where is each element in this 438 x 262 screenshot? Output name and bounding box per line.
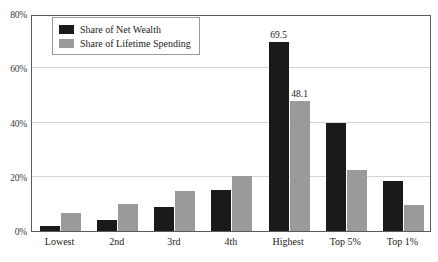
bar-group [203,16,260,231]
bar [326,123,346,232]
legend-item[interactable]: Share of Net Wealth [59,22,191,36]
x-tick-label: 4th [202,236,259,248]
legend-item-label: Share of Net Wealth [80,24,161,35]
bar-group: 69.548.1 [261,16,318,231]
legend-swatch-icon [59,39,74,48]
x-tick-label: 3rd [145,236,202,248]
x-tick-label: Top 5% [317,236,374,248]
bar-group [375,16,432,231]
cropped-title [0,0,438,4]
bar [118,204,138,231]
bar [269,42,289,231]
y-tick-label: 40% [10,119,27,129]
bar [154,207,174,231]
bar [211,190,231,231]
bar [232,176,252,231]
x-tick-label: Highest [260,236,317,248]
legend-swatch-icon [59,25,74,34]
y-tick-label: 60% [10,64,27,74]
bar [404,205,424,231]
bar [40,226,60,231]
x-tick-label: 2nd [88,236,145,248]
y-axis: 0%20%40%60%80% [0,0,30,262]
x-axis: Lowest2nd3rd4thHighestTop 5%Top 1% [31,236,431,256]
bar [97,220,117,231]
legend-item[interactable]: Share of Lifetime Spending [59,36,191,50]
x-tick-label: Top 1% [374,236,431,248]
bar [347,170,367,231]
legend-item-label: Share of Lifetime Spending [80,38,191,49]
bar-value-label: 48.1 [284,89,316,99]
bar-group [318,16,375,231]
y-tick-label: 0% [15,227,27,237]
bar-value-label: 69.5 [263,30,295,40]
bar [290,101,310,231]
bar [383,181,403,231]
x-tick-label: Lowest [31,236,88,248]
y-tick-label: 80% [10,10,27,20]
y-tick-label: 20% [10,173,27,183]
bar-chart: 0%20%40%60%80% 69.548.1 Share of Net Wea… [0,0,438,262]
bar [175,191,195,231]
legend: Share of Net WealthShare of Lifetime Spe… [52,17,200,55]
bar [61,213,81,231]
